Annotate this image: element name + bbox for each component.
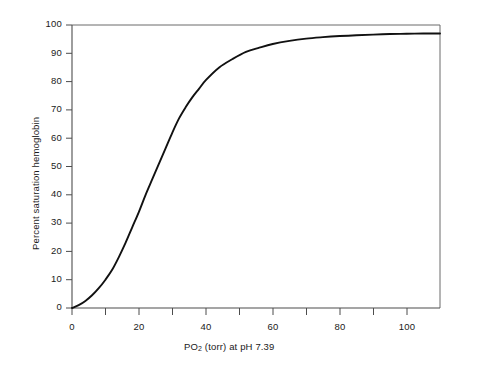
y-tick-label-90: 90 — [36, 47, 62, 58]
hemoglobin-saturation-chart — [0, 0, 482, 366]
y-tick-label-0: 0 — [36, 301, 62, 312]
x-tick-label-60: 60 — [258, 321, 288, 332]
x-axis-title-suffix: (torr) at pH 7.39 — [202, 341, 274, 352]
saturation-curve — [72, 33, 440, 308]
y-tick-label-70: 70 — [36, 103, 62, 114]
figure-container: 0 10 20 30 40 50 60 70 80 90 100 0 20 40… — [0, 0, 482, 366]
x-axis-title-prefix: PO — [184, 341, 198, 352]
x-tick-label-0: 0 — [57, 321, 87, 332]
y-axis-ticks — [66, 25, 72, 308]
y-tick-label-10: 10 — [36, 273, 62, 284]
x-tick-label-80: 80 — [325, 321, 355, 332]
x-axis-title: PO2 (torr) at pH 7.39 — [184, 341, 274, 352]
x-axis-ticks — [72, 308, 407, 315]
x-tick-label-40: 40 — [191, 321, 221, 332]
y-axis-title: Percent saturation hemoglobin — [30, 117, 41, 250]
y-tick-label-80: 80 — [36, 75, 62, 86]
plot-frame — [72, 25, 440, 308]
x-tick-label-100: 100 — [392, 321, 422, 332]
x-tick-label-20: 20 — [124, 321, 154, 332]
y-tick-label-100: 100 — [36, 18, 62, 29]
